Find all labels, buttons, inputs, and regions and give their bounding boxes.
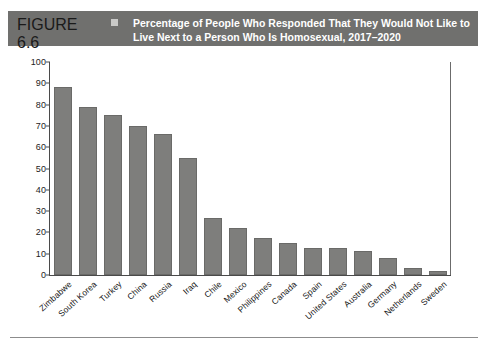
bar xyxy=(429,271,447,275)
bar xyxy=(279,243,297,275)
footer-note xyxy=(10,344,478,351)
x-axis-tick-label: Russia xyxy=(147,279,173,304)
bar xyxy=(354,251,372,275)
bar xyxy=(379,258,397,275)
x-axis-tick-label: China xyxy=(125,279,149,302)
y-axis-tick-mark xyxy=(46,189,50,190)
bar xyxy=(54,87,72,276)
x-axis-tick-label: Canada xyxy=(269,279,298,307)
bar xyxy=(104,115,122,275)
y-axis-tick-label: 30 xyxy=(36,206,46,216)
y-axis-tick-label: 40 xyxy=(36,185,46,195)
y-axis-tick-label: 100 xyxy=(31,57,46,67)
y-axis-tick-mark xyxy=(46,147,50,148)
y-axis-tick-mark xyxy=(46,125,50,126)
bar xyxy=(79,107,97,275)
bar-chart: 0102030405060708090100 ZimbabweSouth Kor… xyxy=(0,0,491,354)
y-axis-tick-mark xyxy=(46,104,50,105)
plot-area: 0102030405060708090100 xyxy=(50,62,450,275)
y-axis-tick-label: 50 xyxy=(36,164,46,174)
bar xyxy=(229,228,247,275)
y-axis-tick-mark xyxy=(46,62,50,63)
footer-divider xyxy=(10,337,478,338)
y-axis-tick-label: 20 xyxy=(36,227,46,237)
x-axis-tick-label: Turkey xyxy=(97,279,123,304)
plot-right-border xyxy=(450,62,451,276)
bar xyxy=(404,268,422,275)
bar xyxy=(254,238,272,275)
bar xyxy=(154,134,172,275)
bar xyxy=(204,218,222,276)
y-axis-tick-mark xyxy=(46,211,50,212)
y-axis-tick-mark xyxy=(46,253,50,254)
y-axis-tick-mark xyxy=(46,83,50,84)
y-axis-tick-label: 90 xyxy=(36,78,46,88)
x-axis-tick-label: Iraq xyxy=(181,279,199,296)
bar xyxy=(179,158,197,275)
y-axis-tick-label: 60 xyxy=(36,142,46,152)
y-axis-tick-mark xyxy=(46,168,50,169)
x-axis-line xyxy=(49,275,451,276)
bar xyxy=(304,248,322,275)
bar xyxy=(129,126,147,275)
y-axis-tick-label: 10 xyxy=(36,249,46,259)
y-axis-tick-mark xyxy=(46,232,50,233)
y-axis-tick-mark xyxy=(46,275,50,276)
bar xyxy=(329,248,347,275)
y-axis-tick-label: 80 xyxy=(36,100,46,110)
x-axis-tick-label: Sweden xyxy=(419,279,449,307)
y-axis-tick-label: 70 xyxy=(36,121,46,131)
